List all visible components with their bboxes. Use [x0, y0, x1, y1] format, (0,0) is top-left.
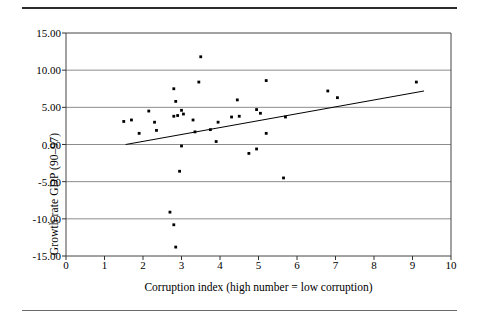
x-tick-label: 10 — [439, 259, 463, 271]
data-point — [122, 120, 125, 123]
y-axis-title-anchor: Growth rate GDP (90–97) — [14, 138, 28, 152]
data-point — [217, 121, 220, 124]
y-axis-title: Growth rate GDP (90–97) — [48, 94, 60, 294]
x-tick-label: 1 — [93, 259, 117, 271]
data-point — [326, 90, 329, 93]
data-point — [180, 145, 183, 148]
data-point — [415, 81, 418, 84]
data-point — [194, 130, 197, 133]
scatter-plot: 15.0010.005.000.00-5.00-10.00-15.00 0123… — [0, 0, 479, 324]
data-point — [192, 119, 195, 122]
data-point — [172, 87, 175, 90]
data-point — [153, 121, 156, 124]
x-axis-title: Corruption index (high number = low corr… — [66, 281, 451, 293]
x-tick-label: 9 — [401, 259, 425, 271]
data-point — [174, 246, 177, 249]
data-point — [238, 115, 241, 118]
data-point — [259, 112, 262, 115]
data-point — [180, 109, 183, 112]
x-tick-label: 4 — [208, 259, 232, 271]
data-point — [130, 119, 133, 122]
y-tick-label: 15.00 — [36, 27, 61, 39]
x-tick-label: 5 — [247, 259, 271, 271]
data-point — [197, 81, 200, 84]
data-point — [182, 113, 185, 116]
data-point — [265, 132, 268, 135]
x-tick-label: 3 — [170, 259, 194, 271]
data-point — [255, 148, 258, 151]
data-point — [265, 79, 268, 82]
data-point — [230, 116, 233, 119]
data-point — [172, 223, 175, 226]
data-point — [169, 211, 172, 214]
trendline — [126, 91, 424, 145]
data-point — [236, 99, 239, 102]
data-point — [284, 116, 287, 119]
chart-canvas — [0, 0, 479, 324]
figure-container: 15.0010.005.000.00-5.00-10.00-15.00 0123… — [0, 0, 479, 324]
data-point — [174, 100, 177, 103]
x-tick-label: 2 — [131, 259, 155, 271]
x-tick-label: 6 — [285, 259, 309, 271]
data-point — [282, 177, 285, 180]
data-point — [215, 140, 218, 143]
x-tick-label: 8 — [362, 259, 386, 271]
data-point — [147, 110, 150, 113]
data-point — [255, 108, 258, 111]
data-point — [178, 170, 181, 173]
data-point — [199, 55, 202, 58]
data-point — [336, 96, 339, 99]
data-point — [155, 129, 158, 132]
data-point — [209, 128, 212, 131]
data-point — [247, 152, 250, 155]
data-point — [138, 132, 141, 135]
data-point — [176, 114, 179, 117]
y-tick-label: 10.00 — [36, 64, 61, 76]
x-tick-label: 7 — [324, 259, 348, 271]
data-point — [172, 115, 175, 118]
